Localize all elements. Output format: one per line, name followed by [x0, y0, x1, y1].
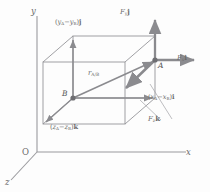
box-edge-tr — [125, 36, 155, 62]
axis-label-x: x — [186, 148, 191, 157]
position-vector-subscript: A/B — [91, 72, 99, 77]
force-y-unit-vector: j — [127, 7, 130, 16]
x-component-label: (xA−xB)i — [148, 94, 175, 101]
point-b-marker — [70, 95, 75, 100]
z-comp-unit-vector: k — [74, 123, 79, 131]
z-component-arrow — [46, 98, 73, 122]
point-label-b: B — [62, 90, 68, 98]
force-x-label: Fxi — [177, 54, 187, 62]
leader-line-force-z — [150, 84, 172, 119]
force-x-unit-vector: i — [184, 53, 187, 62]
y-comp-unit-vector: j — [79, 18, 81, 26]
box-wireframe — [43, 36, 155, 124]
point-label-a: A — [158, 62, 163, 70]
axis-label-origin: O — [22, 148, 29, 157]
axis-label-z: z — [5, 178, 9, 187]
diagram-svg — [0, 0, 210, 192]
position-vector-label: rA/B — [88, 70, 99, 77]
force-z-unit-vector: k — [155, 114, 160, 123]
position-vector-arrow — [73, 62, 152, 98]
force-y-label: Fyj — [120, 8, 130, 16]
figure-canvas: y x z O A B rA/B Fyj Fxi Fzk (yA−yB)j (x… — [0, 0, 210, 192]
force-z-arrow — [126, 60, 155, 88]
x-comp-unit-vector: i — [172, 93, 175, 101]
point-a-marker — [152, 57, 157, 62]
axis-label-y: y — [31, 7, 36, 16]
z-component-label: (zA−zB)k — [50, 124, 78, 131]
force-z-label: Fzk — [148, 115, 160, 123]
y-component-label: (yA−yB)j — [55, 19, 82, 26]
box-edge-tl — [43, 36, 73, 62]
